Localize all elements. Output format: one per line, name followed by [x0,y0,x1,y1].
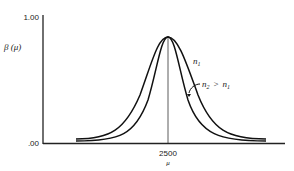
y-tick-bottom: .00 [28,139,40,148]
x-axis-label: μ [166,159,170,167]
curve-label-n1: n1 [193,56,201,67]
annotation-arrow [189,84,200,93]
curve-n2 [76,37,266,141]
y-tick-top: 1.00 [23,13,39,22]
curve-n1 [76,37,266,139]
y-axis-label: β (μ) [3,42,21,52]
x-tick-2500: 2500 [159,149,177,158]
power-curve-chart: 1.00 .00 β (μ) 2500 μ n1 n2>n1 [0,0,294,171]
curve-label-n2: n2>n1 [202,79,230,90]
